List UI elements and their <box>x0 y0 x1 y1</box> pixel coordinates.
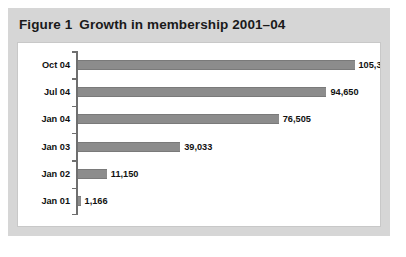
figure-title-text: Growth in membership 2001–04 <box>79 17 285 32</box>
bar <box>78 142 181 152</box>
bar-row: Oct 04105,300 <box>18 51 380 78</box>
chart-plot-area: Oct 04105,300Jul 0494,650Jan 0476,505Jan… <box>17 42 381 227</box>
category-label: Jul 04 <box>18 87 70 97</box>
category-label: Jan 01 <box>18 196 70 206</box>
bar-row: Jan 011,166 <box>18 188 380 215</box>
axis-tick <box>72 78 77 80</box>
bar-value-label: 105,300 <box>359 60 382 70</box>
category-label: Jan 04 <box>18 114 70 124</box>
category-label: Jan 03 <box>18 142 70 152</box>
bar <box>78 169 107 179</box>
axis-tick <box>72 106 77 108</box>
bar-value-label: 76,505 <box>283 114 311 124</box>
bar <box>78 60 355 70</box>
axis-tick <box>72 133 77 135</box>
bar-row: Jul 0494,650 <box>18 78 380 105</box>
figure-container: Figure 1Growth in membership 2001–04 Oct… <box>8 8 390 236</box>
figure-number: Figure 1 <box>19 17 72 32</box>
bar-row: Jan 0211,150 <box>18 160 380 187</box>
bar-row: Jan 0476,505 <box>18 106 380 133</box>
axis-tick <box>72 188 77 190</box>
category-label: Oct 04 <box>18 60 70 70</box>
bar <box>78 87 327 97</box>
figure-title: Figure 1Growth in membership 2001–04 <box>8 8 390 42</box>
axis-tick <box>72 160 77 162</box>
bar-value-label: 11,150 <box>111 169 139 179</box>
bar <box>78 114 279 124</box>
category-label: Jan 02 <box>18 169 70 179</box>
bar-value-label: 1,166 <box>85 196 108 206</box>
bar <box>78 196 81 206</box>
bar-value-label: 39,033 <box>184 142 212 152</box>
bar-row: Jan 0339,033 <box>18 133 380 160</box>
bar-value-label: 94,650 <box>330 87 358 97</box>
